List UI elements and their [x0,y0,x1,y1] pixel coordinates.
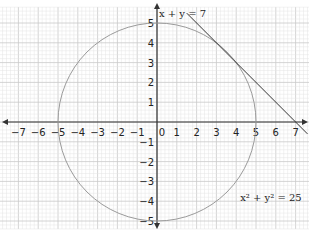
x-tick-label: 2 [193,127,199,138]
y-tick-label: 2 [148,77,154,88]
y-tick-label: −5 [139,216,154,227]
y-tick-label: 4 [148,38,154,49]
x-tick-label: 7 [292,127,298,138]
tangent-line [187,13,308,134]
y-tick-label: −1 [139,137,154,148]
line-equation-label: x + y = 7 [159,8,206,19]
x-tick-label: −2 [110,127,125,138]
y-tick-label: 1 [148,97,154,108]
x-tick-label: −6 [31,127,46,138]
x-tick-label: 4 [233,127,239,138]
x-tick-label: 1 [174,127,180,138]
x-tick-label: 0 [159,127,165,138]
x-tick-label: −7 [11,127,26,138]
x-tick-label: 3 [213,127,219,138]
y-tick-label: 3 [148,58,154,69]
circle-equation-label: x² + y² = 25 [240,192,302,203]
x-tick-label: 6 [273,127,279,138]
x-tick-label: −3 [90,127,105,138]
y-tick-label: −3 [139,176,154,187]
y-tick-label: −4 [139,196,154,207]
y-tick-label: −2 [139,157,154,168]
x-tick-label: −4 [70,127,85,138]
graph-figure: −7−6−5−4−3−2−10123456754321−1−2−3−4−5 x … [0,0,309,230]
